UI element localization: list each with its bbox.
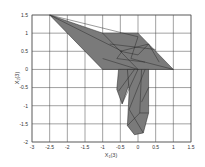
lower-right-lobe bbox=[127, 69, 148, 134]
x-tick-label: -2.5 bbox=[45, 144, 54, 150]
x-tick-label: -2 bbox=[65, 144, 70, 150]
x-tick-label: -1 bbox=[100, 144, 105, 150]
chart: -3-2.5-2-1.5-1-0.500.511.5 1.510.50-0.5-… bbox=[0, 0, 205, 167]
x-axis-ticks: -3-2.5-2-1.5-1-0.500.511.5 bbox=[30, 144, 195, 150]
x-tick-label: -1.5 bbox=[81, 144, 90, 150]
x-tick-label: -0.5 bbox=[116, 144, 125, 150]
y-tick-label: 0.5 bbox=[21, 48, 28, 54]
y-axis-ticks: 1.510.50-0.5-1-1.5-2 bbox=[19, 12, 28, 145]
x-tick-label: 0.5 bbox=[152, 144, 159, 150]
x-tick-label: 1 bbox=[172, 144, 175, 150]
x-tick-label: 0 bbox=[137, 144, 140, 150]
x-tick-label: 1.5 bbox=[188, 144, 195, 150]
y-tick-label: 1 bbox=[25, 30, 28, 36]
y-tick-label: 1.5 bbox=[21, 12, 28, 18]
y-tick-label: 0 bbox=[25, 66, 28, 72]
y-tick-label: -2 bbox=[24, 139, 29, 145]
y-tick-label: -1.5 bbox=[19, 121, 28, 127]
x-tick-label: -3 bbox=[30, 144, 35, 150]
y-tick-label: -0.5 bbox=[19, 84, 28, 90]
y-tick-label: -1 bbox=[24, 103, 29, 109]
y-axis-label: X2(3) bbox=[14, 72, 21, 85]
x-axis-label: X1(3) bbox=[105, 152, 118, 159]
